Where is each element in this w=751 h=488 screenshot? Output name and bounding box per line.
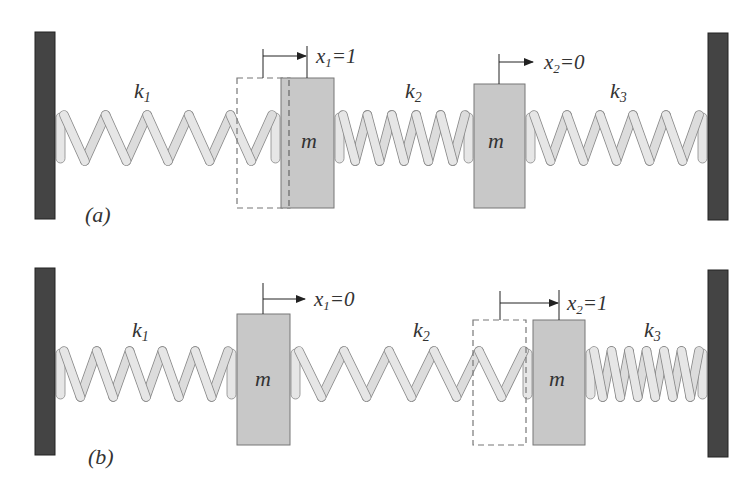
- spring-k3: [526, 113, 707, 163]
- right-wall: [708, 33, 728, 220]
- displacement-x1-indicator: x1=0: [263, 283, 355, 314]
- mass-2-label: m: [549, 366, 565, 391]
- x2-value-label: x2=1: [566, 291, 608, 317]
- mass-1-label: m: [301, 128, 317, 153]
- mass-2-label: m: [488, 128, 504, 153]
- x2-value-label: x2=0: [543, 50, 585, 76]
- spring-k3: [586, 349, 707, 399]
- left-wall: [35, 268, 55, 455]
- displacement-x2-indicator: x2=1: [500, 290, 608, 320]
- mass-1-label: m: [255, 366, 271, 391]
- spring-k2: [291, 349, 532, 399]
- panel-b-caption: (b): [88, 444, 114, 469]
- spring-k2-label: k2: [413, 317, 430, 344]
- panel-a: m m x1=1 x2=0 k1 k2 k3 (a): [35, 32, 728, 227]
- spring-k2: [335, 113, 473, 163]
- displacement-x1-indicator: x1=1: [263, 44, 357, 78]
- x1-value-label: x1=1: [315, 44, 357, 70]
- spring-k2-label: k2: [405, 78, 422, 105]
- panel-b: m m x1=0 x2=1 k1 k2 k3 (b): [35, 268, 728, 469]
- right-wall: [708, 270, 728, 457]
- spring-k1: [56, 349, 236, 399]
- spring-k3-label: k3: [644, 317, 661, 344]
- spring-mass-diagram: m m x1=1 x2=0 k1 k2 k3 (a): [0, 0, 751, 488]
- displacement-x2-indicator: x2=0: [499, 50, 585, 84]
- spring-k1-label: k1: [134, 78, 151, 105]
- spring-k1: [56, 113, 280, 163]
- spring-k3-label: k3: [610, 78, 627, 105]
- x1-value-label: x1=0: [313, 287, 355, 313]
- panel-a-caption: (a): [85, 202, 111, 227]
- left-wall: [35, 32, 55, 219]
- spring-k1-label: k1: [132, 317, 149, 344]
